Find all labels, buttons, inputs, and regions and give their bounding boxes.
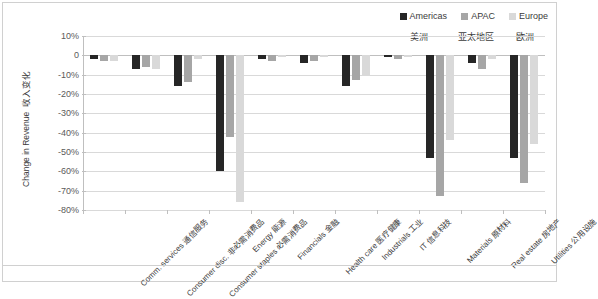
bar-europe-9[interactable]: [446, 55, 455, 140]
bar-americas-2[interactable]: [132, 55, 141, 69]
x-label-cn: 公用设施: [569, 217, 598, 246]
bar-apac-11[interactable]: [520, 55, 529, 183]
bar-americas-10[interactable]: [468, 55, 477, 63]
bar-apac-2[interactable]: [142, 55, 151, 67]
bar-europe-2[interactable]: [152, 55, 161, 69]
x-label-cn: 信息科技: [425, 217, 454, 246]
bar-group: [132, 36, 161, 210]
x-label-cn: 通信服务: [181, 217, 210, 246]
y-axis-title: Change in Revenue 收入变化: [17, 61, 33, 201]
x-axis-tick-mark: [293, 210, 294, 214]
y-axis-tick-mark: [82, 171, 86, 172]
y-axis-tick-label: -60%: [58, 166, 79, 176]
bar-group: [216, 36, 245, 210]
y-axis-tick-labels: 10%0-10%-20%-30%-40%-50%-60%-70%-80%: [39, 36, 79, 210]
footer-divider: [3, 265, 556, 266]
x-axis-tick-mark: [377, 210, 378, 214]
bar-apac-3[interactable]: [184, 55, 193, 82]
x-label-cn: 房地产: [540, 217, 563, 240]
y-axis-title-cn: 收入变化: [21, 71, 31, 107]
x-axis-tick-mark: [83, 210, 84, 214]
bar-europe-3[interactable]: [194, 55, 203, 59]
bar-europe-8[interactable]: [404, 55, 413, 57]
bar-europe-6[interactable]: [320, 55, 329, 57]
y-axis-tick-mark: [82, 36, 86, 37]
bar-apac-6[interactable]: [310, 55, 319, 61]
y-axis-tick-mark: [82, 94, 86, 95]
x-label-en: Utilities: [550, 240, 576, 266]
y-axis-tick-mark: [82, 55, 86, 56]
x-axis-tick-mark: [545, 210, 546, 214]
bar-europe-10[interactable]: [488, 55, 497, 59]
legend-item-americas: Americas: [400, 12, 448, 21]
bar-americas-7[interactable]: [342, 55, 351, 86]
bar-europe-11[interactable]: [530, 55, 539, 144]
x-axis-tick-mark: [461, 210, 462, 214]
bar-americas-1[interactable]: [90, 55, 99, 59]
bar-apac-7[interactable]: [352, 55, 361, 80]
legend-label-europe: Europe: [519, 12, 548, 21]
x-axis-category-label: Materials 原材料: [465, 217, 513, 265]
bar-group: [342, 36, 371, 210]
y-axis-tick-label: -10%: [58, 70, 79, 80]
x-axis-tick-labels: Comm. services 通信服务Consumer disc. 非必需消费品…: [3, 213, 558, 283]
bar-americas-11[interactable]: [510, 55, 519, 157]
bar-americas-4[interactable]: [216, 55, 225, 171]
gridline: [83, 210, 545, 211]
legend-label-americas: Americas: [410, 12, 448, 21]
y-axis-tick-label: -50%: [58, 147, 79, 157]
bar-group: [300, 36, 329, 210]
bar-apac-8[interactable]: [394, 55, 403, 59]
x-label-cn: 金融: [323, 217, 341, 235]
bar-group: [384, 36, 413, 210]
y-axis-tick-mark: [82, 133, 86, 134]
bar-group: [258, 36, 287, 210]
bar-apac-5[interactable]: [268, 55, 277, 61]
bar-apac-4[interactable]: [226, 55, 235, 136]
y-axis-tick-mark: [82, 191, 86, 192]
bar-apac-10[interactable]: [478, 55, 487, 69]
bar-apac-1[interactable]: [100, 55, 109, 61]
bar-europe-4[interactable]: [236, 55, 245, 202]
bar-americas-9[interactable]: [426, 55, 435, 157]
bar-group: [468, 36, 497, 210]
bar-group: [426, 36, 455, 210]
x-axis-tick-mark: [167, 210, 168, 214]
x-label-en: Consumer disc.: [185, 251, 232, 298]
x-axis-tick-mark: [503, 210, 504, 214]
bar-group: [174, 36, 203, 210]
y-axis-tick-label: 0: [74, 50, 79, 60]
bar-americas-8[interactable]: [384, 55, 393, 57]
bar-group: [90, 36, 119, 210]
x-axis-tick-mark: [209, 210, 210, 214]
y-axis-tick-label: 10%: [61, 31, 79, 41]
legend-swatch-americas: [400, 13, 407, 20]
x-axis-tick-mark: [335, 210, 336, 214]
x-axis-tick-mark: [419, 210, 420, 214]
x-axis-tick-mark: [125, 210, 126, 214]
legend-label-apac: APAC: [471, 12, 495, 21]
y-axis-tick-mark: [82, 113, 86, 114]
plot-area: [83, 36, 545, 210]
y-axis-tick-mark: [82, 152, 86, 153]
y-axis-tick-label: -20%: [58, 89, 79, 99]
chart-container: Americas APAC Europe 美洲 亚太地区 欧洲 Change i…: [2, 2, 557, 282]
bar-europe-1[interactable]: [110, 55, 119, 61]
x-label-cn: 原材料: [490, 217, 513, 240]
bar-europe-5[interactable]: [278, 55, 287, 57]
legend-item-apac: APAC: [461, 12, 495, 21]
bar-apac-9[interactable]: [436, 55, 445, 196]
x-label-en: Comm. services: [139, 240, 187, 288]
y-axis-title-en: Change in Revenue: [21, 112, 31, 187]
y-axis-tick-mark: [82, 75, 86, 76]
legend-item-europe: Europe: [509, 12, 548, 21]
bar-americas-3[interactable]: [174, 55, 183, 86]
x-label-en: Financials: [296, 228, 329, 261]
x-axis-tick-mark: [251, 210, 252, 214]
bar-americas-5[interactable]: [258, 55, 267, 59]
y-axis-tick-label: -30%: [58, 108, 79, 118]
bar-group: [510, 36, 539, 210]
x-label-en: Materials: [465, 234, 496, 265]
bar-americas-6[interactable]: [300, 55, 309, 63]
bar-europe-7[interactable]: [362, 55, 371, 74]
